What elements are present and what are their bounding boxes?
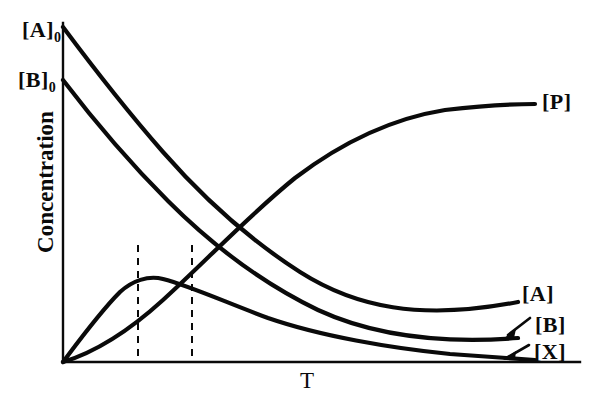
- x-axis-title: T: [300, 368, 314, 394]
- label-initial-concentration-a-subscript: 0: [54, 30, 61, 45]
- kinetics-chart-figure: [A]0 [B]0 [P] [A] [B] [X] Concentration …: [0, 0, 605, 408]
- label-initial-concentration-a: [A]0: [22, 19, 61, 45]
- label-initial-concentration-b-text: [B]: [18, 67, 49, 92]
- y-axis-title: Concentration: [33, 92, 59, 272]
- label-initial-concentration-a-text: [A]: [22, 17, 54, 42]
- curve-label-b: [B]: [535, 314, 566, 336]
- curve-x-intermediate: [63, 278, 535, 362]
- curve-label-a: [A]: [522, 283, 554, 305]
- curve-label-x: [X]: [534, 341, 566, 363]
- curve-label-p: [P]: [542, 91, 572, 113]
- chart-canvas: [0, 0, 605, 408]
- leader-arrow-b: [503, 318, 530, 339]
- curve-p-concentration: [63, 104, 535, 362]
- curve-a-concentration: [63, 27, 518, 311]
- curve-b-concentration: [63, 80, 518, 340]
